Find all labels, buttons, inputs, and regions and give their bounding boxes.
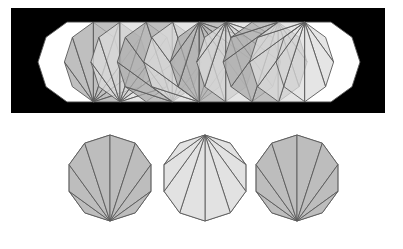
- decagon-triangulation-figure: [0, 0, 403, 249]
- triangulated-decagons-row: [69, 135, 338, 221]
- morph-sequence-strip: [38, 22, 360, 102]
